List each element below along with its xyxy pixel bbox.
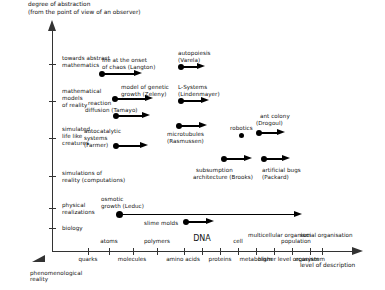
y-level-label: biology bbox=[62, 225, 83, 231]
data-span-arrowhead bbox=[206, 218, 214, 224]
data-point bbox=[239, 133, 244, 138]
x-tick-label-molecules: molecules bbox=[110, 256, 154, 262]
y-axis-title-line1: degree of abstraction bbox=[28, 1, 90, 8]
data-span-arrowhead bbox=[294, 211, 302, 217]
x-tick bbox=[133, 248, 134, 255]
point-label: osmotic bbox=[101, 196, 123, 202]
point-label: reaction bbox=[88, 100, 111, 106]
y-level-label: reality (computations) bbox=[62, 177, 125, 183]
y-tick bbox=[49, 176, 56, 177]
point-label: (Farmer) bbox=[84, 142, 108, 148]
point-label: robotics bbox=[230, 125, 253, 131]
x-tick bbox=[202, 248, 203, 255]
data-span bbox=[188, 221, 208, 223]
x-tick-label-population: population bbox=[274, 238, 318, 244]
point-label: autopoiesis bbox=[178, 50, 211, 56]
y-level-label: mathematics bbox=[62, 62, 99, 68]
y-tick bbox=[49, 228, 56, 229]
point-label: L-Systems bbox=[178, 84, 207, 90]
data-span bbox=[226, 158, 246, 160]
point-label: model of genetic bbox=[121, 84, 169, 90]
x-tick-label-polymers: polymers bbox=[137, 238, 177, 244]
point-label: slime molds bbox=[144, 220, 178, 226]
data-span-arrowhead bbox=[201, 97, 209, 103]
point-label: ant colony bbox=[260, 113, 290, 119]
y-level-label: life like bbox=[62, 133, 82, 139]
point-label: of chaos (Langton) bbox=[102, 64, 155, 70]
y-level-label: physical bbox=[62, 202, 85, 208]
point-label: autocatalytic bbox=[84, 128, 121, 134]
point-label: (Rasmussen) bbox=[167, 138, 204, 144]
x-axis-title: level of description bbox=[300, 262, 355, 269]
point-label: architecture (Brooks) bbox=[193, 174, 253, 180]
y-axis-title-line2: (from the point of view of an observer) bbox=[28, 9, 141, 16]
point-label: growth (Leduc) bbox=[101, 203, 144, 209]
data-span bbox=[181, 125, 201, 127]
y-level-label: mathematical bbox=[62, 88, 101, 94]
point-label: (Drogoul) bbox=[256, 120, 283, 126]
x-tick-label-cell: cell bbox=[218, 238, 258, 244]
data-span bbox=[118, 115, 144, 117]
origin-label-line2: reality bbox=[30, 276, 48, 282]
point-label: (Packard) bbox=[262, 174, 289, 180]
x-tick bbox=[109, 248, 110, 255]
y-level-label: of reality bbox=[62, 102, 87, 108]
point-label: growth (Zeleny) bbox=[121, 91, 166, 97]
point-label: subsumption bbox=[196, 167, 233, 173]
point-label: life at the onset bbox=[102, 57, 147, 63]
x-tick-label-amino-acids: amino acids bbox=[163, 256, 203, 262]
data-span-arrowhead bbox=[244, 155, 252, 161]
x-tick bbox=[238, 248, 239, 255]
y-level-label: simulations of bbox=[62, 170, 102, 176]
x-tick bbox=[310, 248, 311, 255]
data-span bbox=[117, 98, 147, 100]
data-span-arrowhead bbox=[277, 129, 285, 135]
x-tick-label-dna: DNA bbox=[182, 236, 222, 242]
data-span-arrowhead bbox=[197, 63, 205, 69]
x-tick-label-quarks: quarks bbox=[68, 256, 108, 262]
data-span bbox=[118, 145, 142, 147]
point-label: diffusion (Tamayo) bbox=[85, 107, 138, 113]
x-tick-label-ecosystem: ecosystem bbox=[288, 256, 332, 262]
point-label: (Lindenmayer) bbox=[178, 91, 220, 97]
point-label: artificial bugs bbox=[262, 167, 301, 173]
data-span bbox=[183, 100, 203, 102]
y-tick bbox=[49, 64, 56, 65]
data-span bbox=[122, 214, 296, 216]
y-tick bbox=[49, 208, 56, 209]
x-tick bbox=[88, 248, 89, 255]
data-span-arrowhead bbox=[282, 155, 290, 161]
y-tick bbox=[49, 138, 56, 139]
x-tick bbox=[184, 248, 185, 255]
data-span-arrowhead bbox=[140, 142, 148, 148]
y-level-label: realizations bbox=[62, 209, 95, 215]
data-span bbox=[104, 73, 136, 75]
x-tick bbox=[292, 248, 293, 255]
x-tick bbox=[322, 248, 323, 255]
x-tick bbox=[256, 248, 257, 255]
x-tick bbox=[157, 248, 158, 255]
data-span-arrowhead bbox=[134, 70, 142, 76]
y-tick bbox=[49, 101, 56, 102]
data-span-arrowhead bbox=[145, 95, 153, 101]
y-level-label: models bbox=[62, 95, 83, 101]
data-span-arrowhead bbox=[199, 122, 207, 128]
origin-arrowhead bbox=[32, 255, 45, 262]
x-tick bbox=[220, 248, 221, 255]
x-axis-arrowhead bbox=[352, 247, 363, 255]
point-label: microtubules bbox=[167, 131, 204, 137]
x-tick-label-social-organisation: social organisation bbox=[300, 232, 344, 238]
x-tick-label-atoms: atoms bbox=[89, 238, 129, 244]
point-label: systems bbox=[84, 135, 108, 141]
x-tick bbox=[274, 248, 275, 255]
figure-canvas: degree of abstraction (from the point of… bbox=[0, 0, 385, 290]
data-span-arrowhead bbox=[142, 112, 150, 118]
